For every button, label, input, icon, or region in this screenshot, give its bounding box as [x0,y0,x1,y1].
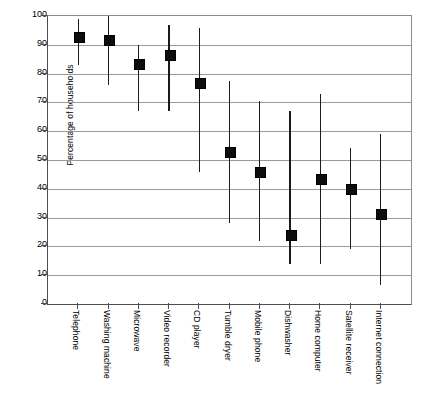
y-axis-tick-label: 100 [13,9,47,19]
x-axis-labels: TelephoneWashing machineMicrowaveVideo r… [0,310,421,394]
x-axis-tick-label: Mobile phone [253,310,263,362]
data-point-marker[interactable] [74,32,85,43]
data-point-marker[interactable] [225,147,236,158]
y-axis-tick-label: 20 [13,239,47,249]
x-axis-tick-mark [319,303,320,309]
x-axis-tick-label: Microwave [132,310,142,352]
error-bar-line [350,148,351,249]
x-axis-tick-mark [108,303,109,309]
x-axis-tick-mark [350,303,351,309]
data-point-marker[interactable] [286,230,297,241]
gridline [48,275,411,276]
x-axis-tick-label: Video recorder [162,310,172,367]
x-axis-tick-label: Telephone [71,310,81,350]
error-bar-line [108,16,109,85]
data-point-marker[interactable] [316,174,327,185]
data-point-marker[interactable] [134,59,145,70]
y-axis-tick-label: 70 [13,95,47,105]
y-axis-tick-label: 50 [13,153,47,163]
data-point-marker[interactable] [346,184,357,195]
gridline [48,246,411,247]
x-axis-tick-label: CD player [192,310,202,349]
y-axis-tick-label: 10 [13,268,47,278]
data-point-marker[interactable] [376,209,387,220]
gridline [48,74,411,75]
data-point-marker[interactable] [255,167,266,178]
x-axis-tick-label: Satellite receiver [344,310,354,375]
data-point-marker[interactable] [165,50,176,61]
plot-area [47,15,412,305]
data-point-marker[interactable] [195,78,206,89]
y-axis-tick-label: 60 [13,124,47,134]
chart-container: Percentage of households 010203040506070… [0,0,421,394]
x-axis-tick-mark [168,303,169,309]
error-bar-line [199,28,200,172]
y-axis-tick-label: 80 [13,67,47,77]
x-axis-tick-label: Internet connection [374,310,384,384]
gridline [48,45,411,46]
x-axis-tick-label: Tumble dryer [223,310,233,361]
x-axis-tick-mark [138,303,139,309]
y-axis-tick-label: 30 [13,211,47,221]
x-axis-tick-mark [198,303,199,309]
x-axis-tick-label: Home computer [313,310,323,372]
x-axis-tick-label: Dishwasher [283,310,293,355]
x-axis-tick-mark [229,303,230,309]
y-axis-tick-label: 90 [13,38,47,48]
x-axis-tick-mark [259,303,260,309]
error-bar-line [138,45,139,111]
error-bar-line [168,25,169,111]
data-point-marker[interactable] [104,35,115,46]
x-axis-tick-mark [289,303,290,309]
y-axis-tick-label: 40 [13,182,47,192]
x-axis-tick-mark [77,303,78,309]
x-axis-tick-mark [380,303,381,309]
x-axis-tick-label: Washing machine [102,310,112,379]
